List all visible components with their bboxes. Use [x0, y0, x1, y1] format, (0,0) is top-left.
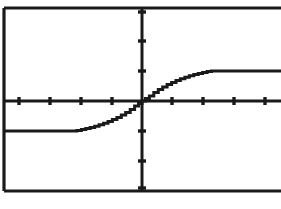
plot-area	[0, 0, 281, 209]
function-plot-svg	[0, 0, 281, 209]
graphing-calculator-screen	[0, 0, 281, 209]
